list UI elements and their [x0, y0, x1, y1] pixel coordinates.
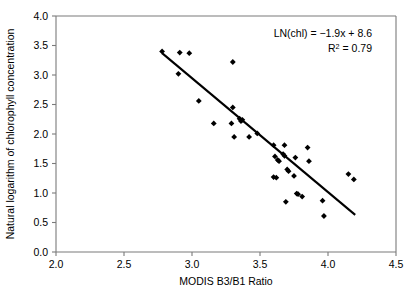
r-squared-value: = 0.79 — [340, 42, 373, 54]
scatter-plot-svg: 0.00.51.01.52.02.53.03.54.0 2.02.53.03.5… — [0, 0, 411, 299]
y-tick-label: 0.5 — [33, 216, 48, 228]
y-tick-label: 2.5 — [33, 98, 48, 110]
r-squared-label: R2 = 0.79 — [328, 42, 372, 55]
y-tick-label: 1.0 — [33, 187, 48, 199]
x-axis-title: MODIS B3/B1 Ratio — [179, 275, 273, 287]
x-tick-label: 2.0 — [49, 258, 64, 270]
y-tick-label: 2.0 — [33, 128, 48, 140]
y-tick-label: 1.5 — [33, 157, 48, 169]
regression-equation-label: LN(chl) = −1.9x + 8.6 — [274, 27, 373, 39]
y-axis-title: Natural logarithm of chlorophyll concent… — [4, 28, 16, 239]
y-tick-label: 3.0 — [33, 69, 48, 81]
x-tick-label: 3.5 — [253, 258, 268, 270]
y-tick-label: 0.0 — [33, 246, 48, 258]
y-tick-label: 3.5 — [33, 39, 48, 51]
x-tick-label: 4.5 — [389, 258, 404, 270]
y-tick-label: 4.0 — [33, 10, 48, 22]
x-tick-label: 4.0 — [321, 258, 336, 270]
chart-figure: 0.00.51.01.52.02.53.03.54.0 2.02.53.03.5… — [0, 0, 411, 299]
x-tick-label: 3.0 — [185, 258, 200, 270]
y-axis-tick-labels: 0.00.51.01.52.02.53.03.54.0 — [33, 10, 48, 258]
x-tick-label: 2.5 — [117, 258, 132, 270]
